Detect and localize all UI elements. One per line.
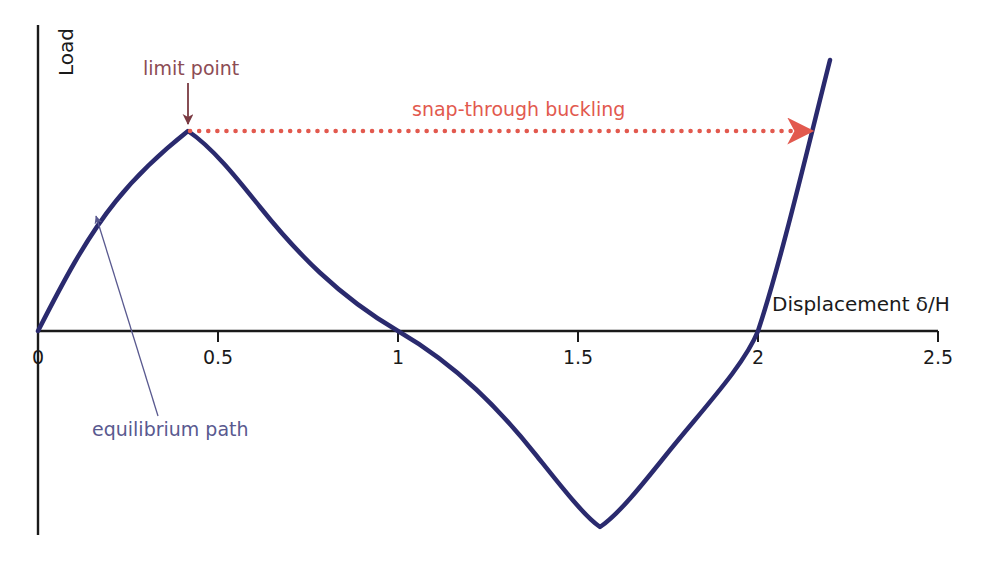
x-axis-title: Displacement δ/H (772, 294, 950, 314)
y-axis-title: Load (56, 28, 76, 76)
x-tick-label-1p5: 1.5 (563, 348, 593, 367)
equilibrium-path-annotation: equilibrium path (92, 420, 249, 439)
buckling-chart-figure: Load Displacement δ/H 0 0.5 1 1.5 2 2.5 … (0, 0, 991, 561)
equilibrium-path-arrow (96, 216, 158, 416)
x-axis-ticks (38, 331, 938, 342)
x-tick-label-0: 0 (32, 348, 44, 367)
snap-through-annotation: snap-through buckling (412, 100, 625, 119)
limit-point-annotation: limit point (143, 59, 239, 78)
x-tick-label-2: 2 (752, 348, 764, 367)
chart-canvas (0, 0, 991, 561)
x-tick-label-1: 1 (392, 348, 404, 367)
x-tick-label-2p5: 2.5 (923, 348, 953, 367)
x-tick-label-0p5: 0.5 (203, 348, 233, 367)
